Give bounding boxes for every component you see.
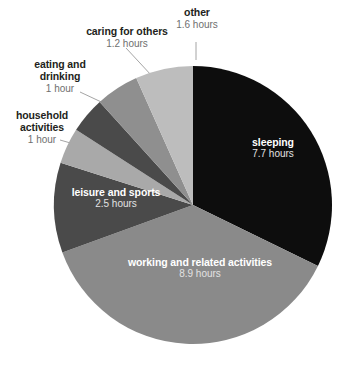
slice-label-caring-name: caring for others xyxy=(57,26,197,38)
slice-label-eating-name-line2: drinking xyxy=(14,71,106,83)
pie-chart-canvas xyxy=(0,0,358,367)
slice-label-working-value: 8.9 hours xyxy=(105,268,295,280)
slice-label-sleeping-name: sleeping xyxy=(230,136,316,148)
slice-label-leisure: leisure and sports 2.5 hours xyxy=(57,186,175,210)
slice-label-eating-value: 1 hour xyxy=(14,83,106,94)
slice-label-caring-value: 1.2 hours xyxy=(57,38,197,49)
pie-chart-figure: other 1.6 hours caring for others 1.2 ho… xyxy=(0,0,358,367)
slice-label-working-name: working and related activities xyxy=(105,256,295,268)
slice-label-household-value: 1 hour xyxy=(0,134,86,145)
leader-line-caring xyxy=(126,48,152,76)
slice-label-working: working and related activities 8.9 hours xyxy=(105,256,295,280)
slice-label-eating-name-line1: eating and xyxy=(14,59,106,71)
slice-label-sleeping-value: 7.7 hours xyxy=(230,148,316,160)
slice-label-household-name-line1: household xyxy=(0,110,86,122)
slice-label-household: household activities 1 hour xyxy=(0,110,86,145)
slice-label-eating: eating and drinking 1 hour xyxy=(14,59,106,94)
slice-label-leisure-value: 2.5 hours xyxy=(57,198,175,210)
slice-label-caring: caring for others 1.2 hours xyxy=(57,26,197,49)
slice-label-sleeping: sleeping 7.7 hours xyxy=(230,136,316,160)
slice-label-other-name: other xyxy=(158,7,236,19)
slice-label-leisure-name: leisure and sports xyxy=(57,186,175,198)
slice-label-household-name-line2: activities xyxy=(0,122,86,134)
